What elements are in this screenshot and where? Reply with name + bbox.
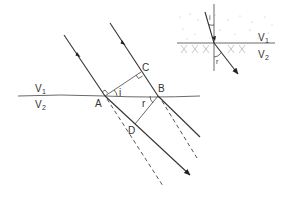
incident-ray-b bbox=[110, 23, 158, 96]
inset-label-medium-2-sub: 2 bbox=[265, 54, 269, 61]
refracted-ray-b bbox=[158, 96, 200, 137]
inset-label-medium-2: V bbox=[258, 49, 265, 60]
inset-label-medium-1-sub: 1 bbox=[265, 37, 269, 44]
angle-arc-i bbox=[114, 90, 117, 96]
interface-line bbox=[18, 95, 200, 97]
inset-label-i: i bbox=[209, 14, 211, 21]
right-angle-c bbox=[136, 75, 143, 79]
label-medium-2: V bbox=[35, 99, 42, 110]
inset-label-r: r bbox=[216, 58, 219, 65]
label-medium-1: V bbox=[35, 83, 42, 94]
inset-arc-r bbox=[214, 53, 221, 57]
incident-ray-a bbox=[64, 35, 105, 96]
inset-label-medium-1: V bbox=[258, 32, 265, 43]
refraction-diagram: A B C D i r V 1 V 2 i r V 1 V 2 bbox=[0, 0, 287, 198]
label-r: r bbox=[142, 98, 146, 109]
inset-diagram: i r V 1 V 2 bbox=[177, 4, 275, 74]
label-medium-2-sub: 2 bbox=[42, 104, 46, 111]
label-b: B bbox=[158, 83, 165, 94]
label-d: D bbox=[128, 125, 135, 136]
incident-wavefront-ac bbox=[105, 72, 141, 96]
label-medium-1-sub: 1 bbox=[42, 88, 46, 95]
label-a: A bbox=[95, 98, 102, 109]
label-i: i bbox=[119, 87, 121, 98]
label-c: C bbox=[142, 62, 149, 73]
inset-medium-2-hatch bbox=[181, 45, 245, 53]
refracted-ray-a bbox=[105, 96, 190, 175]
refracted-wavefront-bd bbox=[135, 96, 158, 124]
